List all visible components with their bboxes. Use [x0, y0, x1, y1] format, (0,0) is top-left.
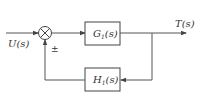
feedback-branch-line [121, 33, 152, 80]
input-label: U(s) [8, 38, 29, 49]
forward-block-g1: G1(s) [85, 22, 120, 45]
feedback-block-h1: H1(s) [85, 68, 120, 91]
svg-text:H1(s): H1(s) [92, 74, 119, 86]
output-label: T(s) [175, 18, 195, 29]
svg-text:G1(s): G1(s) [93, 28, 118, 40]
block-diagram: U(s) ± G1(s) T(s) H1(s) [0, 0, 198, 101]
summing-junction [39, 27, 52, 40]
feedback-sign: ± [51, 44, 59, 54]
